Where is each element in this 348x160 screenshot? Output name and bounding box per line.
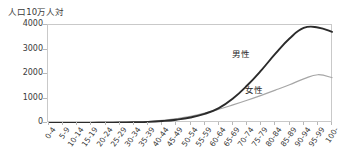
x-tick-mark [105, 122, 106, 125]
y-tick-mark [43, 122, 47, 123]
population-rate-line-chart: 人口10万人対 40003000200010000 0-45-910-1415-… [0, 0, 348, 160]
x-tick-mark [147, 122, 148, 125]
x-axis-tick-labels: 0-45-910-1415-1920-2425-2930-3435-3940-4… [0, 0, 348, 160]
x-tick-mark [48, 122, 49, 125]
female-series-label: 女性 [245, 86, 263, 95]
x-tick-mark [218, 122, 219, 125]
x-tick-mark [161, 122, 162, 125]
x-tick-label: 100- [324, 126, 340, 145]
y-tick-mark [43, 73, 47, 74]
x-tick-mark [260, 122, 261, 125]
x-tick-mark [204, 122, 205, 125]
x-tick-mark [133, 122, 134, 125]
x-tick-mark [303, 122, 304, 125]
male-series-label: 男性 [232, 50, 250, 59]
y-tick-mark [43, 24, 47, 25]
x-tick-mark [232, 122, 233, 125]
x-tick-mark [119, 122, 120, 125]
x-tick-label: 0-4 [44, 126, 58, 141]
x-tick-mark [62, 122, 63, 125]
y-tick-mark [43, 49, 47, 50]
x-tick-mark [190, 122, 191, 125]
x-tick-mark [289, 122, 290, 125]
y-tick-mark [43, 98, 47, 99]
x-tick-mark [246, 122, 247, 125]
x-tick-mark [317, 122, 318, 125]
x-tick-mark [331, 122, 332, 125]
